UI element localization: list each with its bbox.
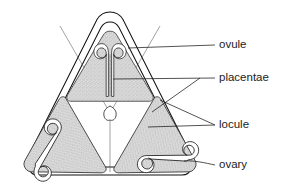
label-ovule: ovule [219, 38, 247, 50]
leader-ovule [128, 45, 215, 48]
label-placentae: placentae [219, 71, 269, 83]
ovary-cross-section-svg: ovule placentae locule ovary [0, 0, 289, 190]
label-locule: locule [219, 118, 249, 130]
ovary-diagram-figure: ovule placentae locule ovary [0, 0, 289, 190]
central-axis [104, 106, 116, 120]
locule-bottom-right [113, 95, 217, 190]
label-group: ovule placentae locule ovary [219, 38, 269, 170]
locule-top [67, 31, 153, 101]
locule-bottom-left [4, 95, 108, 190]
label-ovary: ovary [219, 158, 247, 170]
